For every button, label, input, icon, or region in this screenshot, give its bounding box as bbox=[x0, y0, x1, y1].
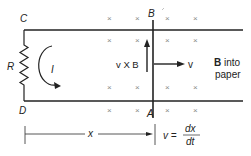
current-arrow-icon bbox=[39, 46, 61, 89]
field-x-icon: × bbox=[135, 106, 140, 116]
field-x-icon: × bbox=[193, 106, 198, 116]
field-x-icon: × bbox=[165, 106, 170, 116]
field-x-icon: × bbox=[193, 83, 198, 93]
force-arrow-icon bbox=[144, 39, 150, 72]
field-x-icon: × bbox=[165, 36, 170, 46]
field-x-icon: × bbox=[107, 83, 112, 93]
label-c: C bbox=[20, 14, 27, 24]
label-field-line1: B into bbox=[214, 58, 240, 68]
label-bar-bottom: A bbox=[147, 109, 154, 119]
field-x-icon: × bbox=[107, 106, 112, 116]
field-x-icon: × bbox=[165, 14, 170, 24]
label-dt: dt bbox=[186, 137, 194, 147]
tick-mark bbox=[162, 8, 164, 10]
field-x-icon: × bbox=[165, 83, 170, 93]
dimension-arrow-icon bbox=[146, 132, 153, 136]
field-x-icon: × bbox=[135, 14, 140, 24]
field-x-icon: × bbox=[193, 36, 198, 46]
field-x-icon: × bbox=[107, 14, 112, 24]
field-x-icon: × bbox=[107, 36, 112, 46]
label-field-into: into bbox=[221, 57, 240, 68]
resistor-icon bbox=[20, 30, 28, 101]
label-force: v X B bbox=[116, 60, 139, 70]
label-d: D bbox=[19, 106, 26, 116]
velocity-arrow-icon bbox=[154, 61, 185, 67]
circuit-diagram bbox=[0, 0, 251, 156]
label-velocity-eq: v = bbox=[163, 131, 177, 141]
field-x-icon: × bbox=[135, 83, 140, 93]
label-dx: dx bbox=[185, 124, 196, 134]
label-bar-top: B bbox=[148, 9, 155, 19]
field-x-icon: × bbox=[193, 14, 198, 24]
label-current: I bbox=[51, 65, 54, 75]
label-r: R bbox=[7, 62, 14, 72]
label-distance: x bbox=[88, 129, 93, 139]
label-field-line2: paper bbox=[215, 70, 241, 80]
label-velocity: v bbox=[188, 60, 193, 70]
field-x-icon: × bbox=[135, 36, 140, 46]
